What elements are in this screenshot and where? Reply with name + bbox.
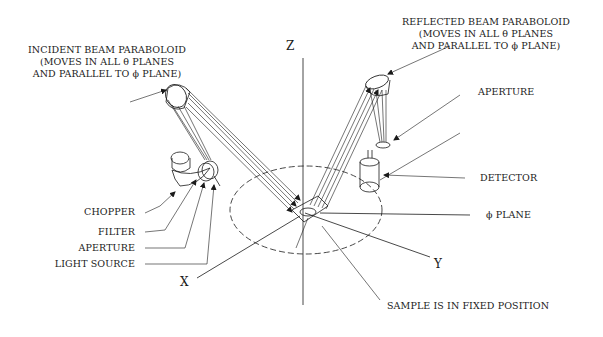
y-axis-label: Y: [434, 258, 442, 270]
phi-plane-label: ϕ PLANE: [486, 209, 531, 221]
incident-paraboloid-label: INCIDENT BEAM PARABOLOID (MOVES IN ALL θ…: [28, 44, 186, 80]
filter-label: FILTER: [50, 226, 135, 238]
reflected-label-line1: REFLECTED BEAM PARABOLOID: [402, 16, 570, 28]
x-axis: [197, 216, 300, 278]
x-axis-label: X: [180, 276, 189, 288]
sample-label: SAMPLE IS IN FIXED POSITION: [387, 300, 549, 312]
light-source: [198, 161, 220, 186]
sample: [300, 208, 316, 216]
reflected-label-line3: AND PARALLEL TO ϕ PLANE): [402, 40, 570, 52]
incident-label-line2: (MOVES IN ALL θ PLANES: [28, 56, 186, 68]
detector-label: DETECTOR: [480, 172, 537, 184]
reflected-label-line2: (MOVES IN ALL θ PLANES: [402, 28, 570, 40]
diagram-canvas: INCIDENT BEAM PARABOLOID (MOVES IN ALL θ…: [0, 0, 603, 337]
aperture-right: [376, 142, 390, 148]
chopper-label: CHOPPER: [50, 206, 135, 218]
y-axis: [305, 213, 430, 257]
light-source-label: LIGHT SOURCE: [20, 258, 135, 270]
aperture-right-label: APERTURE: [478, 86, 534, 98]
incident-paraboloid: [161, 81, 190, 112]
phi-plane-ellipse: [230, 166, 382, 254]
aperture-left-label: APERTURE: [40, 242, 135, 254]
incident-label-line1: INCIDENT BEAM PARABOLOID: [28, 44, 186, 56]
z-axis-label: Z: [286, 40, 294, 52]
incident-label-line3: AND PARALLEL TO ϕ PLANE): [28, 68, 186, 80]
reflected-paraboloid-label: REFLECTED BEAM PARABOLOID (MOVES IN ALL …: [402, 16, 570, 52]
